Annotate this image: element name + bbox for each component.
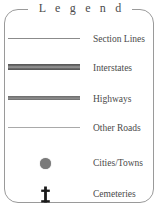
thin-line-swatch (8, 38, 80, 39)
legend-title: L e g e n d (0, 0, 160, 17)
legend-item-label: Cemeteries (93, 180, 136, 208)
highways-swatch (0, 85, 88, 113)
legend-item-highways: Highways (0, 85, 160, 113)
legend-item-cemeteries: Cemeteries (0, 180, 160, 208)
legend-item-section-lines: Section Lines (0, 25, 160, 53)
other-roads-swatch (0, 114, 88, 142)
cross-icon (40, 186, 51, 203)
double-thick-line-swatch (8, 64, 80, 70)
legend-item-label: Section Lines (93, 25, 145, 53)
legend-item-label: Other Roads (93, 114, 141, 142)
legend-item-cities-towns: Cities/Towns (0, 149, 160, 177)
hairline-swatch (8, 127, 80, 128)
legend-item-label: Highways (93, 85, 132, 113)
legend-item-label: Interstates (93, 54, 132, 82)
legend-item-interstates: Interstates (0, 54, 160, 82)
legend-item-label: Cities/Towns (93, 149, 143, 177)
interstates-swatch (0, 54, 88, 82)
section-lines-swatch (0, 25, 88, 53)
cemeteries-swatch (0, 180, 88, 208)
cities-towns-swatch (0, 149, 88, 177)
map-legend: L e g e n d Section Lines Interstates Hi… (0, 0, 160, 211)
legend-item-other-roads: Other Roads (0, 114, 160, 142)
thick-line-swatch (8, 96, 80, 100)
filled-circle-icon (40, 158, 51, 169)
